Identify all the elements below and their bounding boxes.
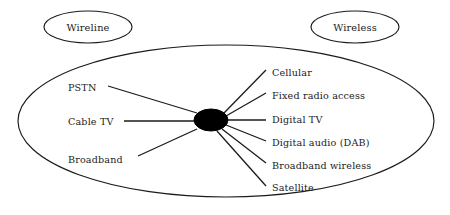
node-label-pstn: PSTN bbox=[68, 82, 96, 93]
node-label-digital-audio-dab: Digital audio (DAB) bbox=[272, 137, 370, 148]
node-label-satellite: Satellite bbox=[272, 182, 314, 193]
diagram-root: PSTNCable TVBroadbandCellularFixed radio… bbox=[0, 0, 450, 215]
central-hub-node bbox=[194, 109, 228, 131]
access-network-diagram: PSTNCable TVBroadbandCellularFixed radio… bbox=[0, 0, 450, 215]
node-label-cellular: Cellular bbox=[272, 67, 312, 78]
node-label-digital-tv: Digital TV bbox=[272, 114, 323, 125]
spoke-line-digital-audio-dab bbox=[226, 125, 266, 141]
spoke-line-broadband bbox=[138, 129, 197, 156]
node-label-cable-tv: Cable TV bbox=[68, 116, 114, 127]
group-label-text-group: WirelineWireless bbox=[66, 22, 376, 33]
spoke-line-cellular bbox=[224, 70, 266, 113]
group-label-wireline: Wireline bbox=[66, 22, 109, 33]
node-label-broadband-wireless: Broadband wireless bbox=[272, 160, 371, 171]
group-label-wireless: Wireless bbox=[333, 22, 377, 33]
spoke-line-group bbox=[108, 70, 266, 186]
spoke-line-broadband-wireless bbox=[222, 129, 266, 163]
node-label-broadband: Broadband bbox=[68, 154, 123, 165]
node-label-fixed-radio-access: Fixed radio access bbox=[272, 90, 365, 101]
spoke-line-satellite bbox=[217, 131, 266, 186]
spoke-line-pstn bbox=[108, 86, 197, 113]
